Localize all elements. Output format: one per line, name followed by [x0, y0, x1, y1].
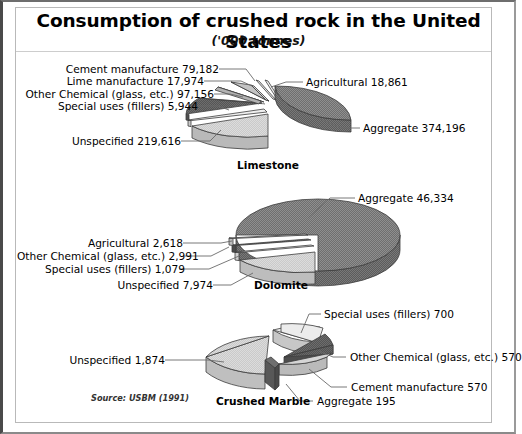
marble-label-special-uses: Special uses (fillers) 700 — [324, 308, 454, 320]
source-note: Source: USBM (1991) — [91, 393, 189, 403]
slice-unspecified — [206, 336, 269, 389]
dolomite-label-other-chemical: Other Chemical (glass, etc.) 2,991 — [17, 250, 185, 262]
limestone-label-unspecified: Unspecified 219,616 — [43, 135, 181, 147]
limestone-label-other-chemical: Other Chemical (glass, etc.) 97,156 — [6, 88, 214, 100]
dolomite-label-aggregate: Aggregate 46,334 — [358, 192, 454, 204]
limestone-label-lime: Lime manufacture 17,974 — [43, 75, 204, 87]
dolomite-label-agricultural: Agricultural 2,618 — [83, 237, 183, 249]
dolomite-label-unspecified: Unspecified 7,974 — [113, 279, 213, 291]
marble-label-unspecified: Unspecified 1,874 — [59, 354, 165, 366]
limestone-caption: Limestone — [228, 159, 308, 171]
slice-aggregate — [275, 86, 351, 132]
marble-label-cement: Cement manufacture 570 — [351, 381, 487, 393]
marble-caption: Crushed Marble — [210, 395, 316, 407]
marble-label-aggregate: Aggregate 195 — [317, 395, 396, 407]
marble-pie — [165, 314, 347, 401]
slice-aggregate — [265, 357, 279, 390]
dolomite-caption: Dolomite — [241, 279, 321, 291]
dolomite-label-special-uses: Special uses (fillers) 1,079 — [45, 263, 179, 275]
limestone-label-aggregate: Aggregate 374,196 — [363, 122, 465, 134]
limestone-label-cement: Cement manufacture 79,182 — [43, 63, 219, 75]
marble-label-other-chemical: Other Chemical (glass, etc.) 570 — [350, 351, 522, 363]
dolomite-pie — [179, 198, 400, 286]
limestone-label-agricultural: Agricultural 18,861 — [306, 76, 408, 88]
limestone-label-special-uses: Special uses (fillers) 5,944 — [33, 100, 198, 112]
